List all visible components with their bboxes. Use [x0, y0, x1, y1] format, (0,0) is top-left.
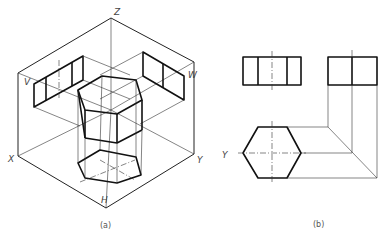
figure-b-orthographic: Y (b) [222, 50, 377, 229]
front-view [243, 51, 301, 91]
label-y: Y [197, 155, 204, 165]
caption-b: (b) [313, 220, 324, 229]
label-y-b: Y [222, 150, 229, 160]
label-v: V [24, 77, 31, 87]
x-axis [18, 110, 111, 156]
label-w: W [188, 70, 198, 80]
orthographic-projection-diagram: Z V W X Y H (a) [0, 0, 384, 242]
label-z: Z [113, 7, 121, 17]
top-view [238, 121, 377, 184]
figure-a-isometric: Z V W X Y H (a) [7, 7, 204, 230]
y-axis [111, 110, 194, 154]
side-view [328, 50, 377, 178]
label-h: H [101, 195, 108, 205]
label-x: X [7, 154, 15, 164]
caption-a: (a) [100, 221, 111, 230]
